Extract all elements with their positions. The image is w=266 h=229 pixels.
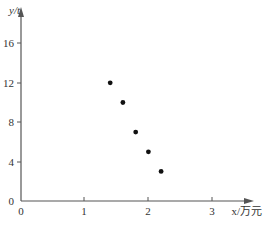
y-ticks: 0 4 8 12 16 (3, 37, 21, 207)
x-axis-arrow-icon (244, 198, 254, 204)
axes (18, 7, 254, 204)
y-tick-label-0: 0 (9, 195, 15, 207)
data-point (146, 149, 151, 154)
data-points (108, 80, 164, 173)
x-tick-label-1: 1 (81, 205, 87, 217)
data-point (133, 130, 138, 135)
x-tick-label-3: 3 (209, 205, 215, 217)
y-tick-label-16: 16 (3, 37, 15, 49)
y-axis-label: y/t (8, 4, 21, 16)
y-tick-label-8: 8 (9, 116, 15, 128)
scatter-chart: 0 1 2 3 0 4 8 12 16 y/t x/万元 (0, 0, 266, 229)
data-point (121, 100, 126, 105)
y-tick-label-4: 4 (9, 156, 15, 168)
data-point (159, 169, 164, 174)
x-tick-label-2: 2 (145, 205, 151, 217)
x-ticks: 0 1 2 3 (18, 197, 215, 217)
data-point (108, 80, 113, 85)
x-tick-label-0: 0 (18, 205, 24, 217)
x-axis-label: x/万元 (231, 205, 262, 217)
y-tick-label-12: 12 (3, 77, 14, 89)
